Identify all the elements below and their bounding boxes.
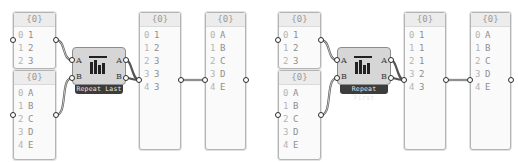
- item-index: 1: [475, 42, 483, 55]
- panel-output-port[interactable]: [318, 37, 324, 43]
- panel-header: {0}: [206, 13, 245, 27]
- list-item: 33: [140, 68, 180, 81]
- panel-input-numbers[interactable]: {0} 01 12 23: [278, 12, 321, 69]
- panel-output-port[interactable]: [508, 77, 514, 83]
- item-value: 1: [293, 29, 298, 42]
- list-item: 2C: [14, 113, 55, 126]
- list-item: 1B: [14, 100, 55, 113]
- item-index: 4: [18, 139, 26, 152]
- item-index: 0: [18, 29, 26, 42]
- component-name-label: Repeat Last: [75, 85, 123, 94]
- panel-input-port[interactable]: [10, 112, 16, 118]
- panel-output-letters[interactable]: {0} 0A 1B 2C 3D 4E: [470, 12, 511, 150]
- list-item: 2C: [206, 55, 245, 68]
- item-index: 0: [409, 29, 417, 42]
- item-index: 1: [144, 42, 152, 55]
- input-param-a[interactable]: A: [341, 56, 347, 65]
- panel-input-port[interactable]: [275, 37, 281, 43]
- repeat-last-component[interactable]: A B A B: [72, 47, 126, 85]
- panel-input-letters[interactable]: {0} 0A 1B 2C 3D 4E: [278, 70, 321, 160]
- list-item: 32: [405, 68, 445, 81]
- component-input-port-a[interactable]: [334, 57, 340, 63]
- list-item: 23: [140, 55, 180, 68]
- list-item: 3D: [279, 126, 320, 139]
- panel-input-port[interactable]: [10, 37, 16, 43]
- component-name-label: Repeat First: [340, 85, 388, 94]
- panel-input-port[interactable]: [467, 77, 473, 83]
- item-value: B: [28, 100, 33, 113]
- item-value: 2: [154, 42, 159, 55]
- component-input-port-b[interactable]: [334, 75, 340, 81]
- item-index: 2: [283, 55, 291, 68]
- panel-input-letters[interactable]: {0} 0A 1B 2C 3D 4E: [13, 70, 56, 160]
- panel-input-port[interactable]: [136, 77, 142, 83]
- panel-input-port[interactable]: [275, 112, 281, 118]
- item-index: 3: [210, 68, 218, 81]
- panel-input-port[interactable]: [401, 77, 407, 83]
- repeat-first-component[interactable]: A B A B: [337, 47, 391, 85]
- item-index: 3: [283, 126, 291, 139]
- panel-header: {0}: [279, 13, 320, 27]
- item-index: 2: [409, 55, 417, 68]
- list-item: 43: [140, 81, 180, 94]
- list-item: 0A: [471, 29, 510, 42]
- item-value: D: [293, 126, 298, 139]
- item-value: D: [220, 68, 225, 81]
- panel-output-port[interactable]: [318, 112, 324, 118]
- panel-header: {0}: [14, 71, 55, 85]
- input-param-a[interactable]: A: [76, 56, 82, 65]
- panel-output-letters[interactable]: {0} 0A 1B 2C 3D 4E: [205, 12, 246, 150]
- panel-output-port[interactable]: [443, 77, 449, 83]
- list-item: 23: [14, 55, 55, 68]
- list-item: 1B: [471, 42, 510, 55]
- list-item: 01: [405, 29, 445, 42]
- item-index: 1: [283, 100, 291, 113]
- item-index: 1: [283, 42, 291, 55]
- list-item: 3D: [14, 126, 55, 139]
- component-input-port-a[interactable]: [69, 57, 75, 63]
- panel-input-port[interactable]: [202, 77, 208, 83]
- panel-output-port[interactable]: [178, 77, 184, 83]
- output-param-a[interactable]: A: [381, 56, 387, 65]
- item-value: 1: [28, 29, 33, 42]
- list-item: 01: [140, 29, 180, 42]
- item-value: 3: [28, 55, 33, 68]
- list-item: 2C: [279, 113, 320, 126]
- panel-output-port[interactable]: [243, 77, 249, 83]
- item-value: C: [293, 113, 298, 126]
- component-input-port-b[interactable]: [69, 75, 75, 81]
- item-value: 1: [419, 55, 424, 68]
- list-item: 2C: [471, 55, 510, 68]
- item-value: B: [293, 100, 298, 113]
- list-item: 4E: [471, 81, 510, 94]
- output-param-a[interactable]: A: [116, 56, 122, 65]
- list-item: 3D: [471, 68, 510, 81]
- item-index: 4: [409, 81, 417, 94]
- item-index: 4: [210, 81, 218, 94]
- panel-header: {0}: [471, 13, 510, 27]
- panel-input-numbers[interactable]: {0} 01 12 23: [13, 12, 56, 69]
- item-value: 3: [154, 55, 159, 68]
- input-param-b[interactable]: B: [341, 72, 347, 81]
- panel-output-port[interactable]: [53, 37, 59, 43]
- panel-output-numbers[interactable]: {0} 01 11 21 32 43: [404, 12, 446, 150]
- component-output-port-a[interactable]: [123, 57, 129, 63]
- list-item: 4E: [14, 139, 55, 152]
- component-output-port-b[interactable]: [388, 75, 394, 81]
- item-value: B: [220, 42, 225, 55]
- panel-output-numbers[interactable]: {0} 01 12 23 33 43: [139, 12, 181, 150]
- component-output-port-a[interactable]: [388, 57, 394, 63]
- item-index: 4: [144, 81, 152, 94]
- item-value: 2: [293, 42, 298, 55]
- component-output-port-b[interactable]: [123, 75, 129, 81]
- item-value: A: [293, 87, 298, 100]
- output-param-b[interactable]: B: [116, 72, 122, 81]
- list-item: 12: [140, 42, 180, 55]
- item-index: 0: [475, 29, 483, 42]
- item-index: 3: [475, 68, 483, 81]
- item-index: 3: [144, 68, 152, 81]
- output-param-b[interactable]: B: [381, 72, 387, 81]
- panel-output-port[interactable]: [53, 112, 59, 118]
- list-item: 4E: [279, 139, 320, 152]
- input-param-b[interactable]: B: [76, 72, 82, 81]
